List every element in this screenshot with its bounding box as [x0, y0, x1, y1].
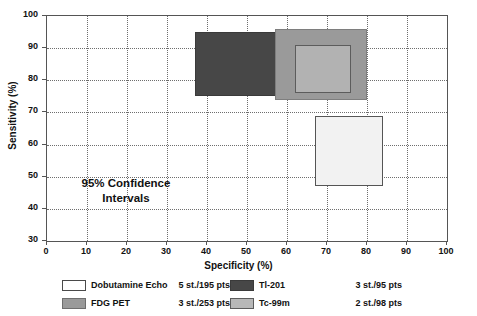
- legend-swatch-tc-99m: [230, 298, 254, 309]
- x-tick: [246, 241, 247, 245]
- legend-item-fdg-pet[interactable]: FDG PET 3 st./253 pts: [62, 294, 230, 312]
- y-tick-label: 50: [12, 170, 38, 180]
- legend-stats-tc-99m: 2 st./98 pts: [349, 298, 402, 308]
- annotation-line-2: Intervals: [56, 191, 196, 206]
- legend-stats-dobutamine-echo: 5 st./195 pts: [172, 280, 230, 290]
- gridline-vertical: [127, 16, 128, 241]
- x-tick: [406, 241, 407, 245]
- x-tick: [46, 241, 47, 245]
- legend-label-tc-99m: Tc-99m: [259, 298, 305, 308]
- gridline-horizontal: [47, 145, 447, 146]
- legend-item-dobutamine-echo[interactable]: Dobutamine Echo 5 st./195 pts: [62, 276, 230, 294]
- ci-box-tc-99m: [295, 45, 351, 93]
- gridline-vertical: [167, 16, 168, 241]
- chart-legend: Dobutamine Echo 5 st./195 pts Tl-201 3 s…: [62, 276, 462, 312]
- legend-item-tc-99m[interactable]: Tc-99m 2 st./98 pts: [230, 294, 402, 312]
- gridline-vertical: [407, 16, 408, 241]
- legend-label-fdg-pet: FDG PET: [91, 298, 130, 308]
- x-axis-label: Specificity (%): [0, 260, 477, 271]
- x-tick: [126, 241, 127, 245]
- x-tick: [326, 241, 327, 245]
- ci-box-dobutamine-echo: [315, 116, 383, 187]
- legend-label-dobutamine-echo: Dobutamine Echo: [91, 280, 168, 290]
- y-tick-label: 90: [12, 41, 38, 51]
- x-tick: [446, 241, 447, 245]
- gridline-vertical: [87, 16, 88, 241]
- y-tick: [42, 47, 46, 48]
- y-tick-label: 40: [12, 202, 38, 212]
- x-tick-label: 80: [351, 246, 381, 256]
- y-axis-label: Sensitivity (%): [7, 51, 18, 181]
- x-tick-label: 40: [191, 246, 221, 256]
- legend-swatch-dobutamine-echo: [62, 280, 86, 291]
- legend-swatch-tl-201: [230, 280, 254, 291]
- x-tick: [166, 241, 167, 245]
- x-tick-label: 60: [271, 246, 301, 256]
- x-tick: [86, 241, 87, 245]
- gridline-horizontal: [47, 112, 447, 113]
- y-tick-label: 30: [12, 234, 38, 244]
- gridline-horizontal: [47, 209, 447, 210]
- y-tick: [42, 15, 46, 16]
- confidence-interval-chart: Specificity (%) Sensitivity (%) 95% Conf…: [0, 0, 477, 316]
- x-tick-label: 30: [151, 246, 181, 256]
- x-tick: [206, 241, 207, 245]
- chart-annotation: 95% Confidence Intervals: [56, 176, 196, 206]
- y-tick: [42, 79, 46, 80]
- legend-item-tl-201[interactable]: Tl-201 3 st./95 pts: [230, 276, 402, 294]
- x-tick-label: 50: [231, 246, 261, 256]
- legend-swatch-fdg-pet: [62, 298, 86, 309]
- annotation-line-1: 95% Confidence: [56, 176, 196, 191]
- plot-area: [46, 15, 448, 242]
- legend-stats-tl-201: 3 st./95 pts: [349, 280, 402, 290]
- x-tick: [286, 241, 287, 245]
- y-tick-label: 60: [12, 138, 38, 148]
- x-tick-label: 10: [71, 246, 101, 256]
- y-tick-label: 70: [12, 105, 38, 115]
- x-tick-label: 90: [391, 246, 421, 256]
- legend-stats-fdg-pet: 3 st./253 pts: [172, 298, 230, 308]
- y-tick: [42, 176, 46, 177]
- x-tick: [366, 241, 367, 245]
- x-tick-label: 70: [311, 246, 341, 256]
- x-tick-label: 20: [111, 246, 141, 256]
- y-tick: [42, 240, 46, 241]
- x-tick-label: 100: [431, 246, 461, 256]
- y-tick-label: 80: [12, 73, 38, 83]
- legend-label-tl-201: Tl-201: [259, 280, 305, 290]
- y-tick: [42, 144, 46, 145]
- y-tick-label: 100: [12, 9, 38, 19]
- x-tick-label: 0: [31, 246, 61, 256]
- y-tick: [42, 111, 46, 112]
- y-tick: [42, 208, 46, 209]
